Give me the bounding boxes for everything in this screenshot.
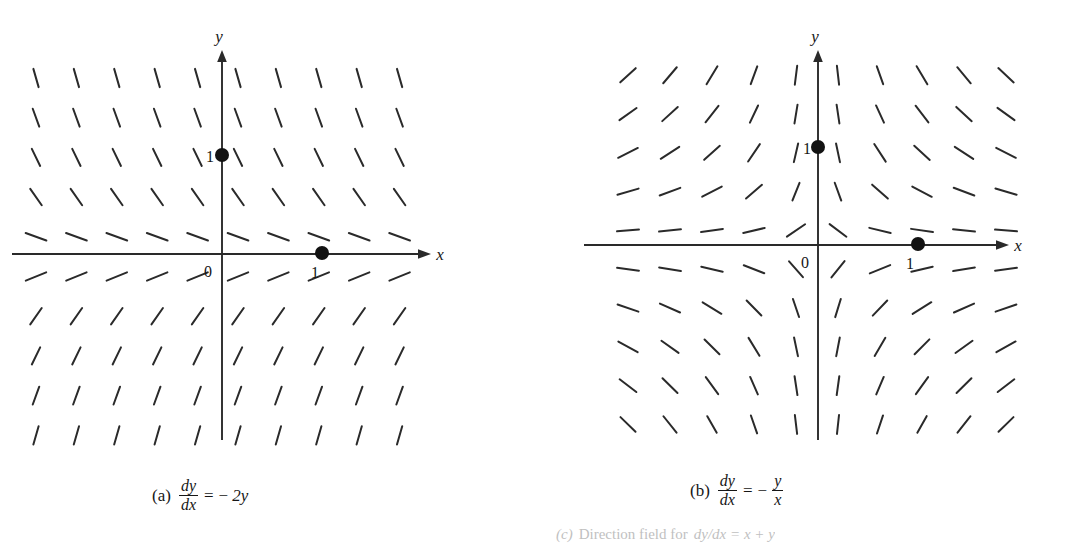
- slope-mark: [30, 308, 41, 324]
- slope-mark: [396, 387, 403, 405]
- slope-mark: [355, 149, 363, 166]
- slope-mark: [395, 347, 403, 364]
- slope-mark: [187, 233, 208, 241]
- slope-mark: [316, 69, 321, 87]
- slope-mark: [914, 146, 930, 160]
- y-axis-label: y: [213, 27, 223, 46]
- slope-mark: [193, 149, 201, 166]
- slope-mark: [268, 272, 288, 280]
- slope-mark: [395, 149, 403, 166]
- slope-mark: [747, 301, 762, 316]
- slope-mark: [151, 189, 162, 205]
- slope-mark: [154, 109, 161, 127]
- slope-mark: [353, 189, 364, 205]
- slope-mark: [32, 347, 40, 364]
- slope-mark: [192, 308, 203, 324]
- slope-mark: [33, 109, 40, 127]
- slope-mark: [957, 67, 970, 83]
- slope-mark: [353, 308, 364, 324]
- slope-mark: [389, 272, 409, 280]
- slope-mark: [154, 387, 161, 405]
- slope-mark: [751, 66, 758, 84]
- slope-mark: [831, 261, 844, 277]
- slope-mark: [955, 147, 973, 159]
- slope-mark: [234, 347, 242, 364]
- slope-mark: [660, 188, 681, 196]
- slope-mark: [308, 233, 329, 241]
- slope-mark: [749, 338, 760, 356]
- slope-mark: [744, 265, 765, 273]
- slope-mark: [877, 415, 883, 433]
- x-axis-label: x: [435, 245, 444, 264]
- slope-mark: [998, 379, 1015, 392]
- slope-mark: [660, 304, 680, 313]
- slope-mark: [663, 67, 677, 83]
- slope-mark: [235, 69, 240, 87]
- slope-mark: [72, 149, 80, 166]
- y-axis-label: y: [809, 27, 819, 46]
- slope-mark: [394, 308, 405, 324]
- slope-mark: [835, 299, 841, 317]
- slope-mark: [394, 189, 405, 205]
- slope-mark: [235, 387, 242, 405]
- slope-mark: [107, 272, 127, 280]
- slope-mark: [957, 378, 972, 393]
- slope-mark: [997, 108, 1014, 120]
- x-axis-arrowhead: [996, 240, 1009, 250]
- slope-mark: [835, 183, 842, 201]
- slope-mark: [792, 183, 799, 201]
- slope-mark: [869, 228, 890, 233]
- slope-mark: [26, 233, 47, 241]
- slope-mark: [194, 109, 201, 127]
- minus-sign-b: −: [758, 481, 768, 501]
- slope-mark: [750, 377, 758, 394]
- slope-mark: [235, 109, 242, 127]
- slope-mark: [995, 230, 1017, 232]
- slope-mark: [746, 185, 762, 199]
- slope-mark: [73, 387, 80, 405]
- slope-mark: [74, 69, 79, 87]
- rhs-numerator: y: [772, 473, 783, 490]
- slope-mark: [702, 187, 722, 197]
- slope-mark: [701, 229, 723, 232]
- slope-mark: [795, 376, 798, 395]
- slope-mark: [617, 230, 639, 232]
- slope-mark: [313, 308, 324, 324]
- slope-mark: [705, 339, 720, 354]
- slope-mark: [830, 224, 847, 237]
- slope-mark: [662, 107, 678, 121]
- slope-mark: [748, 144, 760, 161]
- slope-mark: [268, 233, 289, 241]
- slope-mark: [618, 304, 639, 311]
- slope-mark: [273, 189, 284, 205]
- slope-mark: [751, 415, 757, 433]
- slope-mark: [193, 347, 201, 364]
- slope-mark: [617, 189, 638, 195]
- slope-mark: [915, 339, 930, 354]
- slope-mark: [661, 341, 678, 353]
- slope-mark: [316, 109, 323, 127]
- slope-mark: [155, 69, 160, 87]
- slope-mark: [73, 109, 80, 127]
- slope-mark: [349, 272, 369, 280]
- fraction-numerator: dy: [718, 473, 737, 490]
- rhs-denominator: x: [772, 490, 783, 508]
- slope-mark: [837, 376, 840, 395]
- slope-mark: [273, 308, 284, 324]
- caption-tag-b: (b): [690, 481, 710, 501]
- slope-mark: [234, 149, 242, 166]
- y-tick-label-1: 1: [206, 148, 214, 165]
- slope-mark: [913, 302, 932, 314]
- slope-mark: [996, 341, 1015, 352]
- slope-mark: [707, 416, 716, 432]
- slope-mark: [235, 426, 240, 444]
- origin-label: 0: [204, 263, 212, 280]
- slope-mark: [113, 149, 121, 166]
- slope-mark: [837, 415, 839, 434]
- slope-mark: [106, 233, 127, 241]
- y-axis-arrowhead: [813, 50, 823, 62]
- slope-mark: [315, 347, 323, 364]
- slope-marks-group-b: [617, 66, 1017, 434]
- slope-mark: [66, 272, 86, 280]
- x-tick-label-1: 1: [311, 264, 319, 281]
